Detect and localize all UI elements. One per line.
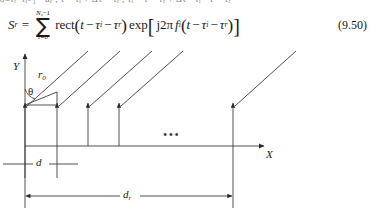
rect-function-name: rect (55, 17, 74, 33)
summation-operator: Ns−1 ∑ i=0 (36, 10, 50, 41)
range-r0-label: r0 (38, 68, 46, 82)
equation-expression: Sr = Ns−1 ∑ i=0 rect(t−τi−τr) exp[j2πfi(… (8, 9, 240, 40)
equation-number: (9.50) (338, 18, 367, 33)
incident-ray-4 (121, 51, 183, 106)
exp-inner-minus-1: − (190, 17, 201, 33)
exp-inner-minus-2: − (208, 17, 219, 33)
figure-drawing-canvas (0, 48, 379, 223)
incident-ray-1 (27, 51, 88, 106)
truncated-text: δ≡τᵢ−τᵢ₋₁ · αᵣ , τ = τᵢ + Δτ − τᵣ , τᵢ =… (0, 0, 379, 4)
incident-ray-3 (90, 51, 152, 106)
elements-ellipsis: ••• (163, 128, 180, 143)
figure-antenna-array-geometry: Y X r0 θ d dr ••• (0, 48, 379, 223)
angle-theta-label: θ (28, 85, 33, 97)
equation-block: Sr = Ns−1 ∑ i=0 rect(t−τi−τr) exp[j2πfi(… (0, 9, 379, 43)
exp-j2pi-term: j2π (154, 17, 173, 33)
exp-function-name: exp (129, 17, 148, 33)
summation-lower-limit: i=0 (38, 34, 48, 41)
incident-ray-5 (235, 51, 296, 106)
rect-minus-2: − (102, 17, 113, 33)
aperture-dr-label: dr (123, 188, 131, 202)
eq-equals-sign: = (18, 17, 33, 33)
rect-minus-1: − (84, 17, 95, 33)
y-axis-label: Y (13, 60, 19, 72)
truncated-text-line-above: δ≡τᵢ−τᵢ₋₁ · αᵣ , τ = τᵢ + Δτ − τᵣ , τᵢ =… (0, 0, 379, 7)
x-axis-label: X (266, 148, 273, 160)
textbook-page: δ≡τᵢ−τᵢ₋₁ · αᵣ , τ = τᵢ + Δτ − τᵣ , τᵢ =… (0, 0, 379, 223)
incident-ray-2 (59, 51, 120, 106)
element-spacing-d-label: d (36, 156, 42, 168)
